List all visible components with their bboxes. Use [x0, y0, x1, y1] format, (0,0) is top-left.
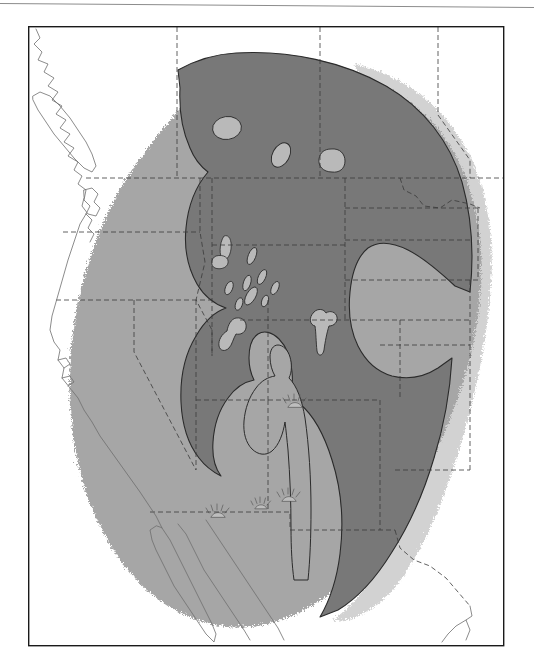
uplift-patch: [212, 255, 228, 268]
map-canvas: [0, 0, 534, 671]
map-figure: [0, 0, 534, 671]
uplift-patch: [319, 149, 345, 172]
page-canvas: [0, 0, 534, 671]
